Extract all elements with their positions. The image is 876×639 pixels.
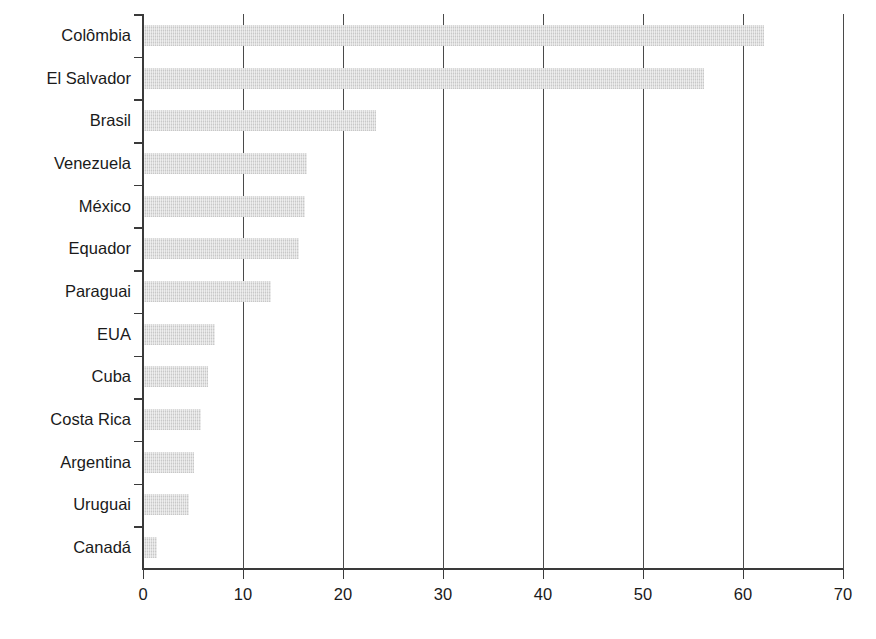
y-axis-category-labels: ColômbiaEl SalvadorBrasilVenezuelaMéxico… [0,14,131,569]
bar [144,68,704,89]
y-axis-tick [134,526,143,528]
bar [144,238,299,259]
x-axis-tick [343,569,344,579]
y-axis-tick [134,313,143,315]
bar [144,366,208,387]
y-axis-tick [134,270,143,272]
y-axis-tick [134,185,143,187]
y-axis-category-label: Argentina [60,453,131,472]
x-gridline [843,14,844,569]
x-gridline [543,14,544,569]
y-axis-category-label: El Salvador [47,69,131,88]
bar [144,494,189,515]
y-axis-tick [134,227,143,229]
x-gridline [343,14,344,569]
y-axis-tick [134,57,143,59]
x-axis-tick-label: 30 [434,585,452,604]
x-axis-tick [543,569,544,579]
x-axis-tick-label: 40 [534,585,552,604]
y-axis-tick [134,484,143,486]
bar [144,110,376,131]
bar [144,281,271,302]
y-axis-category-label: Paraguai [65,282,131,301]
y-axis-tick [134,99,143,101]
x-gridline [643,14,644,569]
x-axis-tick [443,569,444,579]
x-axis-tick [843,569,844,579]
bar [144,25,764,46]
x-axis-tick [143,569,144,579]
x-axis-tick-label: 10 [234,585,252,604]
y-axis-category-label: Venezuela [54,154,131,173]
bar [144,153,307,174]
x-axis-tick-label: 20 [334,585,352,604]
y-axis-category-label: EUA [97,325,131,344]
y-axis-tick [134,398,143,400]
bar [144,409,201,430]
y-axis-category-label: Canadá [73,538,131,557]
x-axis-tick [743,569,744,579]
x-axis-tick-label: 60 [734,585,752,604]
y-axis-category-label: Colômbia [61,26,131,45]
x-gridline [443,14,444,569]
y-axis-category-label: Uruguai [73,495,131,514]
x-axis-tick-label: 70 [834,585,852,604]
x-axis-tick [643,569,644,579]
bar [144,537,157,558]
y-axis-tick [134,142,143,144]
y-axis-category-label: México [79,197,131,216]
y-axis-category-label: Equador [69,239,131,258]
x-axis-tick-label: 50 [634,585,652,604]
y-axis-category-label: Cuba [92,367,131,386]
x-axis-tick [243,569,244,579]
bar [144,196,305,217]
y-axis-category-label: Costa Rica [50,410,131,429]
bar [144,324,215,345]
bar-chart: ColômbiaEl SalvadorBrasilVenezuelaMéxico… [0,0,876,639]
bar [144,452,194,473]
x-axis-tick-label: 0 [138,585,147,604]
x-gridline [743,14,744,569]
y-axis-tick [134,14,143,16]
plot-area [143,14,843,569]
y-axis-tick [134,441,143,443]
y-axis-category-label: Brasil [90,111,131,130]
y-axis-tick [134,356,143,358]
